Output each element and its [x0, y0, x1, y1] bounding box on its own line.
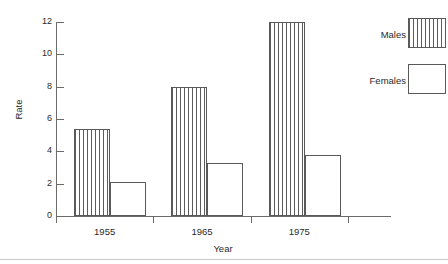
x-tick-mark: [56, 217, 57, 223]
bar-males-1975: [269, 22, 305, 216]
legend-label-females: Females: [370, 75, 406, 86]
legend-item-females: Females: [352, 64, 446, 98]
y-tick-label: 4: [28, 146, 52, 155]
legend-swatch-males: [408, 18, 446, 48]
x-tick-label: 1965: [172, 226, 232, 237]
y-tick-mark: [57, 216, 64, 217]
bar-males-1965: [171, 87, 207, 216]
x-tick-label: 1955: [75, 226, 135, 237]
legend-label-males: Males: [381, 29, 406, 40]
bottom-divider: [0, 259, 448, 260]
legend-item-males: Males: [352, 18, 446, 52]
y-tick-label: 0: [28, 211, 52, 220]
y-tick-label: 10: [28, 49, 52, 58]
legend: Males Females: [352, 18, 446, 110]
x-tick-label: 1975: [269, 226, 329, 237]
x-tick-mark: [348, 217, 349, 223]
legend-swatch-females: [408, 64, 446, 94]
bar-females-1955: [110, 182, 146, 216]
x-tick-mark: [251, 217, 252, 223]
bar-females-1975: [305, 155, 341, 216]
plot-area: [56, 22, 348, 216]
x-tick-mark: [153, 217, 154, 223]
y-tick-label: 2: [28, 179, 52, 188]
y-tick-label: 8: [28, 82, 52, 91]
y-axis-title: Rate: [13, 90, 24, 130]
x-axis-title: Year: [188, 243, 258, 254]
y-tick-label: 12: [28, 17, 52, 26]
bar-chart: 024681012 195519651975 Rate Year Males F…: [0, 0, 448, 264]
bar-females-1965: [207, 163, 243, 216]
x-axis-line: [56, 216, 391, 217]
bar-males-1955: [74, 129, 110, 216]
y-tick-label: 6: [28, 114, 52, 123]
